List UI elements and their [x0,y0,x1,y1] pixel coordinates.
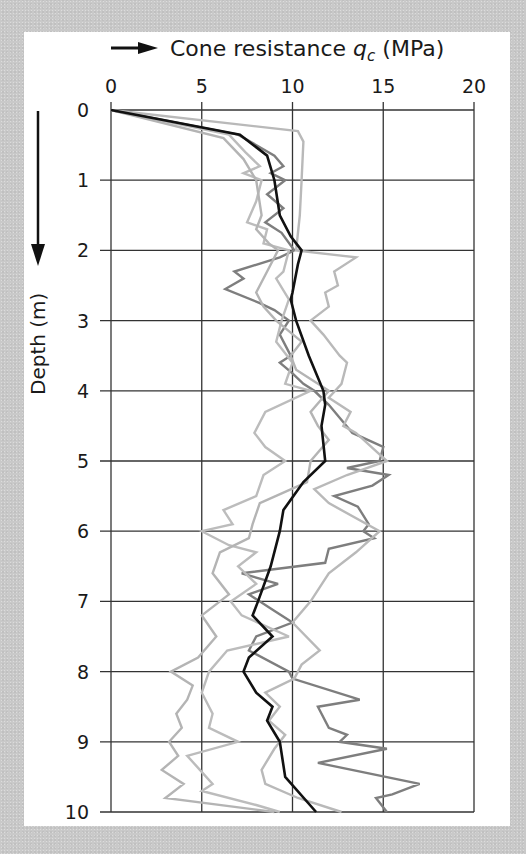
title-arrow-icon [111,42,158,54]
y-tick-label: 1 [77,169,89,191]
x-tick-label: 15 [371,75,395,97]
depth-arrow-icon [31,111,45,266]
x-axis-title: Cone resistance qc (MPa) [170,36,444,65]
x-tick-label: 10 [280,75,304,97]
x-tick-label: 0 [105,75,117,97]
y-tick-label: 7 [77,590,89,612]
cone-resistance-depth-chart: Cone resistance qc (MPa) Depth (m) 05101… [0,0,526,854]
y-tick-label: 3 [77,310,89,332]
y-tick-label: 9 [77,731,89,753]
x-axis-tick-labels: 05101520 [105,75,486,97]
y-tick-label: 6 [77,520,89,542]
x-tick-label: 20 [462,75,486,97]
y-tick-label: 8 [77,661,89,683]
chart-grid [100,102,474,812]
y-tick-label: 0 [77,99,89,121]
y-tick-label: 10 [65,801,89,823]
y-axis-title: Depth (m) [26,293,50,395]
y-tick-label: 5 [77,450,89,472]
y-tick-label: 2 [77,239,89,261]
y-tick-label: 4 [77,380,89,402]
y-axis-tick-labels: 012345678910 [65,99,89,823]
x-tick-label: 5 [196,75,208,97]
